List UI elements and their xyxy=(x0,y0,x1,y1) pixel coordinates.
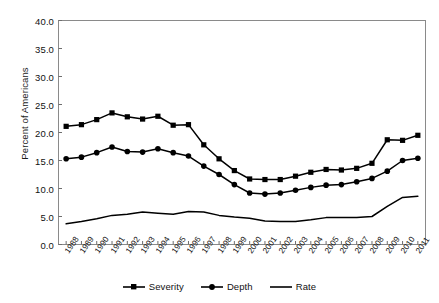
x-axis-tick-label: 1988 xyxy=(63,235,81,255)
line-chart: Percent of Americans 0.05.010.015.020.02… xyxy=(0,0,439,303)
x-axis-tick-label: 1990 xyxy=(93,235,111,255)
legend-marker-circle-icon xyxy=(201,282,223,292)
x-axis-tick-label: 1991 xyxy=(109,235,127,255)
x-axis-tick-label: 2000 xyxy=(246,235,264,255)
x-axis-tick-label: 1992 xyxy=(124,235,142,255)
legend-marker-square-icon xyxy=(123,282,145,292)
x-axis-tick-label: 1995 xyxy=(170,235,188,255)
x-axis-tick-label: 2010 xyxy=(399,235,417,255)
x-axis-tick-label: 2002 xyxy=(277,235,295,255)
x-axis-tick-label: 1989 xyxy=(78,235,96,255)
legend-item-rate[interactable]: Rate xyxy=(270,281,316,292)
x-axis-tick-label: 1998 xyxy=(216,235,234,255)
x-axis-tick-label: 2003 xyxy=(292,235,310,255)
x-axis-tick-label: 1994 xyxy=(154,235,172,255)
legend-item-severity[interactable]: Severity xyxy=(123,281,184,292)
x-axis-tick-label: 2004 xyxy=(307,235,325,255)
legend-label: Rate xyxy=(296,281,316,292)
legend-item-depth[interactable]: Depth xyxy=(201,281,253,292)
x-axis-tick-label: 2007 xyxy=(353,235,371,255)
chart-legend: SeverityDepthRate xyxy=(0,281,439,292)
x-axis-tick-label: 2006 xyxy=(338,235,356,255)
x-axis-tick-label: 2001 xyxy=(261,235,279,255)
x-axis-tick-label: 1999 xyxy=(231,235,249,255)
x-axis-tick-label: 1996 xyxy=(185,235,203,255)
x-axis-tick-label: 2009 xyxy=(384,235,402,255)
x-axis-tick-label: 2011 xyxy=(414,235,431,255)
legend-marker-line-icon xyxy=(270,282,292,292)
x-axis-tick-label: 2008 xyxy=(368,235,386,255)
x-axis-tick-label: 1993 xyxy=(139,235,157,255)
x-axis-tick-labels: 1988198919901991199219931994199519961997… xyxy=(0,0,439,303)
legend-label: Depth xyxy=(227,281,253,292)
legend-label: Severity xyxy=(149,281,184,292)
x-axis-tick-label: 2005 xyxy=(323,235,341,255)
x-axis-tick-label: 1997 xyxy=(200,235,218,255)
